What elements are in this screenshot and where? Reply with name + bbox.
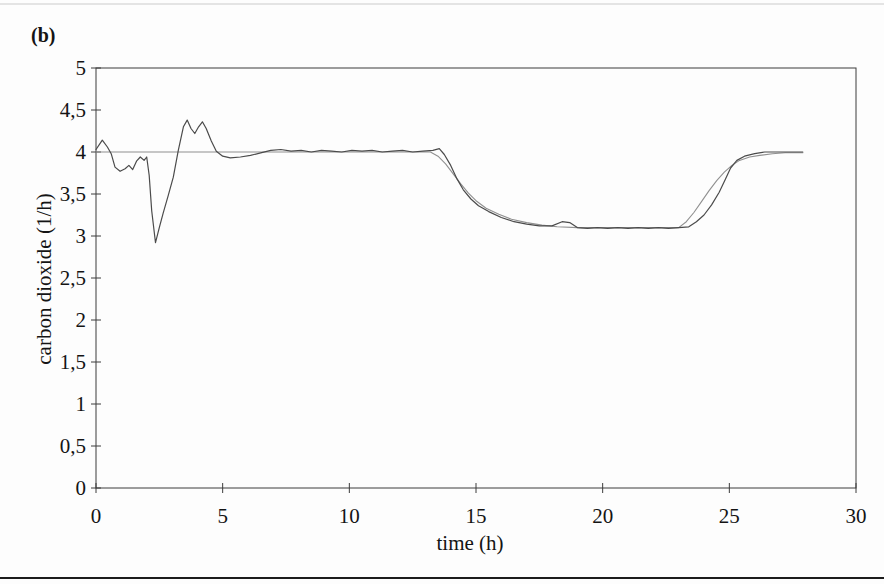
x-tick-label: 0 xyxy=(91,504,102,528)
x-tick-label: 15 xyxy=(466,504,487,528)
series-noisy-line xyxy=(96,120,803,243)
y-tick-label: 4 xyxy=(76,140,87,164)
x-tick-label: 5 xyxy=(217,504,228,528)
y-tick-label: 4,5 xyxy=(60,98,86,122)
x-tick-label: 25 xyxy=(719,504,740,528)
y-tick-label: 1 xyxy=(76,392,87,416)
y-tick-label: 5 xyxy=(76,56,87,80)
x-tick-label: 20 xyxy=(592,504,613,528)
x-tick-label: 30 xyxy=(846,504,867,528)
y-tick-label: 3 xyxy=(76,224,87,248)
x-tick-label: 10 xyxy=(339,504,360,528)
y-tick-label: 0 xyxy=(76,476,87,500)
figure-panel: (b) carbon dioxide (1/h) 00,511,522,533,… xyxy=(0,0,884,584)
plot-frame xyxy=(96,68,856,488)
y-tick-label: 0,5 xyxy=(60,434,86,458)
bottom-rule xyxy=(0,577,884,579)
y-tick-label: 2 xyxy=(76,308,87,332)
y-tick-label: 1,5 xyxy=(60,350,86,374)
line-chart: 00,511,522,533,544,55051015202530 xyxy=(0,0,884,584)
y-tick-label: 3,5 xyxy=(60,182,86,206)
x-axis-title: time (h) xyxy=(436,531,503,556)
y-tick-label: 2,5 xyxy=(60,266,86,290)
